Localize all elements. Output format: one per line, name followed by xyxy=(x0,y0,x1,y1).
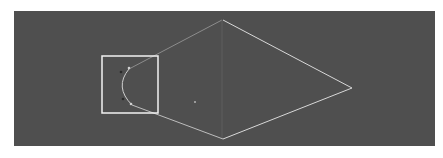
edge-lower-right[interactable] xyxy=(223,88,352,139)
canvas-viewport[interactable] xyxy=(14,11,435,146)
handle-bottom-light-icon[interactable] xyxy=(130,103,133,106)
handle-bottom-dark-icon[interactable] xyxy=(122,98,125,101)
pivot-point-icon[interactable] xyxy=(194,101,196,103)
edge-upper-left[interactable] xyxy=(129,20,222,69)
shape-canvas[interactable] xyxy=(14,11,435,146)
handle-top-light-icon[interactable] xyxy=(128,67,131,70)
edge-lower-left[interactable] xyxy=(132,105,223,139)
handle-top-dark-icon[interactable] xyxy=(120,71,123,74)
edge-upper-right[interactable] xyxy=(223,20,352,88)
